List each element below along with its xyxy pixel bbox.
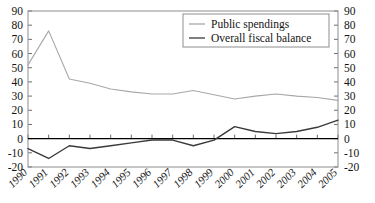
- y-axis-left-label: 70: [12, 33, 24, 45]
- chart-legend[interactable]: Public spendingsOverall fiscal balance: [183, 14, 329, 47]
- y-axis-right-label: 30: [344, 90, 356, 102]
- y-axis-right-label: 70: [344, 33, 356, 45]
- y-axis-left-label: -10: [8, 147, 24, 159]
- y-axis-right-labels: 9080706050403020100-10-20: [344, 5, 360, 173]
- y-axis-left-label: 20: [12, 104, 24, 116]
- x-axis-label: 1993: [67, 166, 91, 190]
- y-axis-left-label: 40: [12, 76, 24, 88]
- y-axis-left-label: 90: [12, 5, 24, 17]
- x-axis-label: 1996: [129, 166, 153, 190]
- y-axis-right-label: -10: [344, 147, 360, 159]
- y-axis-left-label: 0: [17, 133, 23, 145]
- y-axis-right-label: 90: [344, 5, 356, 17]
- y-axis-right-label: 40: [344, 76, 356, 88]
- y-axis-right-label: 80: [344, 19, 356, 31]
- x-axis-label: 2004: [295, 166, 319, 190]
- y-axis-left-label: 50: [12, 62, 24, 74]
- y-axis-left-label: 30: [12, 90, 24, 102]
- y-axis-right-label: -20: [344, 161, 360, 173]
- line-chart: 9080706050403020100-10-20 90807060504030…: [0, 0, 375, 203]
- y-axis-right-label: 20: [344, 104, 356, 116]
- y-axis-left-labels: 9080706050403020100-10-20: [8, 5, 24, 173]
- legend-label-1: Public spendings: [211, 18, 290, 31]
- y-axis-left-label: 10: [12, 118, 24, 130]
- chart-container: 9080706050403020100-10-20 90807060504030…: [0, 0, 375, 203]
- x-axis-labels: 1990199119921993199419951996199719981999…: [5, 166, 339, 190]
- y-axis-right-label: 10: [344, 118, 356, 130]
- x-axis-label: 2003: [274, 166, 298, 190]
- x-axis-label: 2002: [253, 166, 277, 190]
- y-axis-left-label: 80: [12, 19, 24, 31]
- x-axis-label: 1994: [88, 166, 112, 190]
- x-axis-label: 1991: [26, 166, 50, 190]
- x-axis-label: 1992: [47, 166, 71, 190]
- y-axis-right-label: 60: [344, 48, 356, 60]
- y-axis-right-label: 50: [344, 62, 356, 74]
- x-axis-label: 2000: [212, 166, 236, 190]
- y-axis-left-label: 60: [12, 48, 24, 60]
- x-axis-label: 1998: [171, 166, 195, 190]
- x-axis-label: 1995: [109, 166, 133, 190]
- x-axis-label: 2001: [233, 166, 257, 190]
- y-axis-right-label: 0: [344, 133, 350, 145]
- x-axis-label: 2005: [315, 166, 339, 190]
- x-axis-label: 1999: [191, 166, 215, 190]
- x-axis-label: 1997: [150, 166, 174, 190]
- legend-label-2: Overall fiscal balance: [211, 32, 311, 44]
